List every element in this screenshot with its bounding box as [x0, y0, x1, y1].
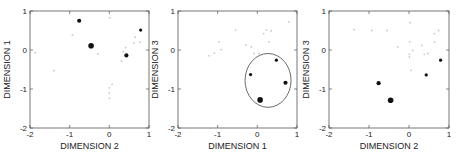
highlighted-point	[88, 43, 94, 49]
background-point	[122, 51, 124, 53]
background-point	[97, 53, 99, 55]
scatter-panel-dim2-vs-dim3: -2-101-2-101DIMENSION 2DIMENSION 3	[301, 7, 452, 151]
chart-canvas: -2-101-2-101DIMENSION 2DIMENSION 1 -2-10…	[0, 0, 457, 158]
background-point	[423, 53, 425, 55]
background-point	[72, 34, 74, 36]
background-point	[109, 17, 111, 19]
plot-frame	[329, 11, 449, 128]
scatter-panel-dim1-vs-dim3: -2-101-2-101DIMENSION 1DIMENSION 3	[150, 7, 300, 151]
mds-figure: -2-101-2-101DIMENSION 2DIMENSION 1 -2-10…	[0, 0, 457, 158]
background-point	[409, 53, 411, 55]
background-point	[218, 41, 220, 43]
x-tick-label: -1	[66, 130, 74, 139]
y-tick-label: 1	[171, 7, 176, 16]
x-tick-label: 0	[107, 130, 112, 139]
highlighted-point	[439, 59, 442, 62]
y-tick-label: 0	[322, 46, 327, 55]
x-axis-label: DIMENSION 2	[360, 141, 419, 151]
background-point	[214, 52, 216, 54]
plot-frame	[30, 11, 149, 128]
plot-frame	[178, 11, 297, 128]
x-tick-label: -2	[26, 130, 34, 139]
y-tick-label: -1	[20, 85, 28, 94]
background-point	[245, 44, 247, 46]
highlighted-point	[275, 59, 278, 62]
highlighted-point	[388, 98, 394, 104]
background-point	[371, 30, 373, 32]
x-axis-label: DIMENSION 2	[60, 141, 119, 151]
background-point	[139, 41, 141, 43]
background-point	[111, 83, 113, 85]
x-tick-label: 0	[407, 130, 412, 139]
background-point	[263, 33, 265, 35]
y-axis-label: DIMENSION 1	[2, 40, 12, 99]
y-axis-label: DIMENSION 3	[150, 40, 160, 99]
background-point	[434, 41, 436, 43]
highlighted-point	[257, 97, 263, 103]
background-point	[438, 30, 440, 32]
background-point	[386, 30, 388, 32]
background-point	[427, 53, 429, 55]
background-point	[220, 49, 222, 51]
background-point	[253, 53, 255, 55]
y-tick-label: -2	[20, 124, 28, 133]
x-axis-label: DIMENSION 1	[208, 141, 267, 151]
background-point	[34, 52, 36, 54]
background-point	[133, 42, 135, 44]
y-tick-label: 0	[23, 46, 28, 55]
highlighted-point	[249, 73, 252, 76]
background-point	[258, 53, 260, 55]
background-point	[268, 41, 270, 43]
x-tick-label: 1	[295, 130, 300, 139]
x-tick-label: 0	[255, 130, 260, 139]
background-point	[410, 69, 412, 71]
background-point	[412, 49, 414, 51]
background-point	[421, 44, 423, 46]
background-point	[353, 29, 355, 31]
y-tick-label: -2	[319, 124, 327, 133]
x-tick-label: -2	[325, 130, 333, 139]
y-axis-label: DIMENSION 3	[301, 40, 311, 99]
highlighted-point	[124, 53, 128, 57]
x-tick-label: -1	[365, 130, 373, 139]
x-tick-label: -1	[214, 130, 222, 139]
background-point	[121, 60, 123, 62]
background-point	[108, 92, 110, 94]
background-point	[125, 47, 127, 49]
background-point	[409, 22, 411, 24]
background-point	[250, 46, 252, 48]
highlighted-point	[283, 81, 287, 85]
x-tick-label: 1	[147, 130, 152, 139]
y-tick-label: -1	[168, 85, 176, 94]
highlighted-point	[377, 81, 381, 85]
background-point	[397, 46, 399, 48]
scatter-panel-dim2-vs-dim1: -2-101-2-101DIMENSION 2DIMENSION 1	[2, 7, 152, 151]
highlighted-point	[139, 29, 142, 32]
background-point	[270, 30, 272, 32]
y-tick-label: 1	[322, 7, 327, 16]
background-point	[208, 55, 210, 57]
background-point	[53, 70, 55, 72]
background-point	[235, 29, 237, 31]
background-point	[108, 97, 110, 99]
y-tick-label: 1	[23, 7, 28, 16]
background-point	[108, 87, 110, 89]
highlighted-point	[425, 73, 428, 76]
y-tick-label: -1	[319, 85, 327, 94]
background-point	[134, 36, 136, 38]
y-tick-label: 0	[171, 46, 176, 55]
background-point	[434, 33, 436, 35]
highlighted-point	[77, 19, 81, 23]
background-point	[409, 41, 411, 43]
background-point	[288, 21, 290, 23]
x-tick-label: -2	[174, 130, 182, 139]
background-point	[409, 56, 411, 58]
x-tick-label: 1	[447, 130, 452, 139]
y-tick-label: -2	[168, 124, 176, 133]
background-point	[266, 29, 268, 31]
